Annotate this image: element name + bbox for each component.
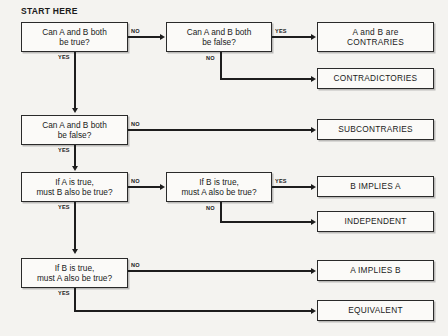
start-here-label: START HERE — [21, 6, 78, 16]
result-node-b-implies-a[interactable]: B IMPLIES A — [317, 176, 434, 197]
result-node-contradictories[interactable]: CONTRADICTORIES — [317, 68, 434, 89]
edge-label-q4-yes: YES — [58, 204, 70, 210]
edge-label-q1-yes: YES — [58, 54, 70, 60]
node-line: be false? — [58, 130, 92, 141]
edge-label-q2-yes: YES — [275, 28, 287, 34]
edge-label-q1-no: NO — [131, 28, 140, 34]
arrowhead-q6-no — [311, 268, 316, 274]
node-line: If B is true, — [55, 263, 95, 274]
decision-node-can-a-and-b-both-be-true[interactable]: Can A and B both be true? — [21, 22, 128, 52]
arrowhead-q1-no — [160, 34, 165, 40]
arrowhead-q2-no — [311, 76, 316, 82]
edge-q6-yes-horizontal — [74, 310, 312, 312]
edge-q5-yes — [272, 186, 312, 188]
result-node-subcontraries[interactable]: SUBCONTRARIES — [317, 119, 434, 140]
decision-node-can-a-and-b-both-be-false-2[interactable]: Can A and B both be false? — [21, 115, 128, 145]
node-line: A and B are — [352, 27, 398, 38]
edge-label-q6-yes: YES — [58, 290, 70, 296]
node-line: must A also be true? — [181, 187, 256, 198]
node-line: be true? — [59, 37, 89, 48]
edge-q5-no-vertical — [220, 202, 222, 222]
node-line: must B also be true? — [36, 187, 112, 198]
edge-q6-no — [128, 270, 312, 272]
edge-label-q5-no: NO — [206, 205, 215, 211]
decision-node-if-b-is-true-must-a-also-be-true-2[interactable]: If B is true, must A also be true? — [21, 258, 128, 288]
flowchart-canvas: START HERE Can A and B both be true? NO … — [0, 0, 448, 336]
edge-q2-no-horizontal — [220, 78, 312, 80]
result-node-contraries[interactable]: A and B are CONTRARIES — [317, 22, 434, 52]
edge-label-q3-no: NO — [131, 121, 140, 127]
edge-label-q2-no: NO — [206, 55, 215, 61]
edge-q1-no — [128, 36, 161, 38]
result-node-equivalent[interactable]: EQUIVALENT — [317, 300, 434, 321]
arrowhead-q4-yes — [72, 249, 78, 254]
edge-q3-yes-vertical — [74, 145, 76, 167]
arrowhead-q3-no — [311, 127, 316, 133]
node-line: If B is true, — [199, 177, 239, 188]
node-line: CONTRARIES — [347, 37, 404, 48]
arrowhead-q3-yes — [72, 166, 78, 171]
node-line: EQUIVALENT — [348, 305, 402, 316]
node-line: A IMPLIES B — [350, 265, 401, 276]
arrowhead-q6-yes — [311, 308, 316, 314]
arrowhead-q5-no — [311, 219, 316, 225]
result-node-a-implies-b[interactable]: A IMPLIES B — [317, 260, 434, 281]
arrowhead-q4-no — [160, 184, 165, 190]
node-line: be false? — [202, 37, 236, 48]
node-line: If A is true, — [55, 177, 94, 188]
edge-q3-no — [128, 129, 312, 131]
node-line: INDEPENDENT — [344, 216, 406, 227]
node-line: SUBCONTRARIES — [338, 124, 413, 135]
node-line: Can A and B both — [42, 27, 107, 38]
edge-q4-yes-vertical — [74, 202, 76, 250]
result-node-independent[interactable]: INDEPENDENT — [317, 211, 434, 232]
arrowhead-q2-yes — [311, 34, 316, 40]
edge-q1-yes-vertical — [74, 52, 76, 109]
decision-node-if-b-is-true-must-a-also-be-true-1[interactable]: If B is true, must A also be true? — [166, 172, 272, 202]
arrowhead-q5-yes — [311, 184, 316, 190]
edge-q4-no — [128, 186, 161, 188]
edge-label-q4-no: NO — [131, 178, 140, 184]
edge-label-q6-no: NO — [131, 262, 140, 268]
node-line: B IMPLIES A — [350, 181, 401, 192]
edge-label-q3-yes: YES — [58, 147, 70, 153]
arrowhead-q1-yes — [72, 108, 78, 113]
node-line: Can A and B both — [42, 120, 107, 131]
node-line: CONTRADICTORIES — [334, 73, 418, 84]
edge-label-q5-yes: YES — [275, 178, 287, 184]
edge-q5-no-horizontal — [220, 221, 312, 223]
edge-q2-no-vertical — [220, 52, 222, 79]
edge-q6-yes-vertical — [74, 288, 76, 311]
edge-q2-yes — [272, 36, 312, 38]
decision-node-if-a-is-true-must-b-also-be-true[interactable]: If A is true, must B also be true? — [21, 172, 128, 202]
node-line: Can A and B both — [187, 27, 252, 38]
decision-node-can-a-and-b-both-be-false-1[interactable]: Can A and B both be false? — [166, 22, 272, 52]
node-line: must A also be true? — [37, 273, 112, 284]
